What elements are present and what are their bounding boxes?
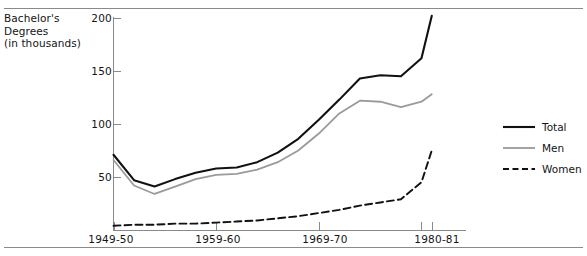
legend-item-women: Women — [503, 158, 587, 179]
x-axis-ticks — [115, 222, 433, 230]
plot-area — [0, 0, 587, 256]
legend-swatch-women-icon — [503, 164, 535, 174]
series-line-men — [114, 94, 432, 194]
chart-figure: Bachelor's Degrees (in thousands) 200 15… — [0, 0, 587, 256]
chart-legend: Total Men Women — [503, 116, 587, 179]
legend-swatch-total-icon — [503, 122, 535, 132]
legend-label-men: Men — [542, 142, 564, 154]
legend-label-women: Women — [542, 163, 582, 175]
series-line-women — [114, 151, 432, 226]
y-axis-ticks — [113, 19, 121, 178]
axes-lines — [113, 17, 466, 231]
legend-label-total: Total — [542, 121, 567, 133]
legend-item-men: Men — [503, 137, 587, 158]
legend-swatch-men-icon — [503, 143, 535, 153]
series-line-total — [114, 16, 432, 187]
legend-item-total: Total — [503, 116, 587, 137]
